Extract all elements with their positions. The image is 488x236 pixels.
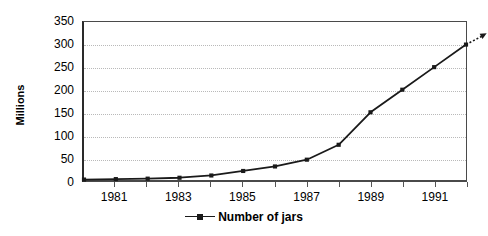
x-tick-mark [210, 182, 211, 187]
y-tick-label: 0 [67, 175, 74, 189]
data-point-marker [82, 177, 86, 181]
data-point-marker [305, 158, 309, 162]
series-number-of-jars [84, 22, 466, 180]
data-point-marker [337, 143, 341, 147]
x-tick-mark [307, 182, 308, 187]
x-tick-mark [178, 182, 179, 187]
y-tick-label: 200 [54, 83, 74, 97]
x-tick-label: 1983 [165, 190, 192, 204]
x-tick-label: 1989 [357, 190, 384, 204]
chart-figure: Millions 050100150200250300350 198119831… [0, 0, 488, 236]
data-point-marker [368, 110, 372, 114]
data-point-marker [114, 177, 118, 181]
legend-label: Number of jars [218, 210, 303, 224]
y-tick-label: 300 [54, 37, 74, 51]
x-axis-tick-marks [82, 182, 467, 190]
data-point-marker [400, 88, 404, 92]
plot-area [82, 21, 467, 182]
data-point-marker [146, 177, 150, 181]
x-tick-mark [339, 182, 340, 187]
x-tick-mark [403, 182, 404, 187]
x-tick-mark [242, 182, 243, 187]
y-axis-title: Millions [14, 60, 32, 150]
x-tick-mark [435, 182, 436, 187]
projection-arrow-line [466, 35, 484, 44]
y-tick-label: 150 [54, 106, 74, 120]
data-point-marker [209, 173, 213, 177]
data-point-marker [432, 65, 436, 69]
data-point-marker [273, 164, 277, 168]
legend-marker-icon [185, 211, 215, 223]
x-tick-mark [146, 182, 147, 187]
x-tick-label: 1991 [422, 190, 449, 204]
x-tick-mark [275, 182, 276, 187]
y-tick-label: 100 [54, 129, 74, 143]
x-axis-tick-labels: 198119831985198719891991 [0, 190, 488, 206]
data-point-marker [241, 169, 245, 173]
y-tick-label: 350 [54, 14, 74, 28]
x-tick-mark [467, 182, 468, 187]
x-tick-mark [371, 182, 372, 187]
x-tick-mark [114, 182, 115, 187]
x-tick-label: 1985 [229, 190, 256, 204]
x-tick-label: 1987 [293, 190, 320, 204]
y-tick-label: 250 [54, 60, 74, 74]
chart-legend: Number of jars [0, 210, 488, 224]
data-point-marker [177, 176, 181, 180]
y-tick-label: 50 [61, 152, 74, 166]
series-line [84, 45, 466, 180]
x-tick-label: 1981 [101, 190, 128, 204]
